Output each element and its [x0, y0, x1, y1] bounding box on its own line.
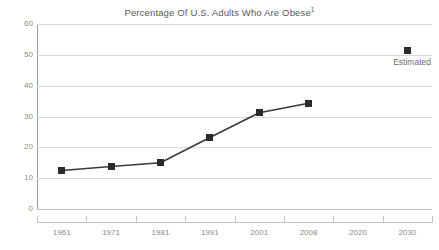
obesity-line-chart: Percentage Of U.S. Adults Who Are Obese1…	[0, 0, 439, 250]
x-tick-label-1991: 1991	[185, 228, 235, 237]
x-axis-tick	[432, 216, 433, 223]
x-tick-label-2008: 2008	[284, 228, 334, 237]
data-point-2030	[404, 47, 411, 54]
data-point-1981	[157, 159, 164, 166]
chart-title-footnote-marker: 1	[311, 6, 315, 13]
x-tick-label-1971: 1971	[86, 228, 136, 237]
gridline-0	[37, 209, 432, 210]
data-point-2008	[305, 100, 312, 107]
x-tick-label-1961: 1961	[37, 228, 87, 237]
y-tick-label-0: 0	[7, 205, 33, 213]
x-axis-tick	[37, 216, 38, 223]
x-axis-tick	[333, 216, 334, 223]
plot-area	[37, 24, 432, 209]
x-axis-tick	[136, 216, 137, 223]
y-tick-label-40: 40	[7, 82, 33, 90]
data-point-1961	[58, 167, 65, 174]
y-tick-label-60: 60	[7, 20, 33, 28]
chart-title-text: Percentage Of U.S. Adults Who Are Obese	[124, 7, 310, 18]
x-tick-label-2020: 2020	[333, 228, 383, 237]
data-point-1991	[206, 134, 213, 141]
estimated-annotation-label: Estimated	[0, 58, 431, 67]
y-tick-label-20: 20	[7, 143, 33, 151]
x-tick-label-2030: 2030	[382, 228, 432, 237]
series-line	[37, 24, 432, 209]
data-point-1971	[108, 163, 115, 170]
x-axis-tick	[383, 216, 384, 223]
y-tick-label-30: 30	[7, 113, 33, 121]
x-tick-label-2001: 2001	[234, 228, 284, 237]
data-point-2001	[256, 109, 263, 116]
x-tick-label-1981: 1981	[135, 228, 185, 237]
y-tick-label-10: 10	[7, 174, 33, 182]
chart-title: Percentage Of U.S. Adults Who Are Obese1	[0, 7, 439, 18]
x-axis-tick	[86, 216, 87, 223]
y-axis-tick-labels: 60 50 40 30 20 10 0	[0, 24, 33, 209]
x-axis-tick	[235, 216, 236, 223]
x-axis-tick	[284, 216, 285, 223]
x-axis-tick	[185, 216, 186, 223]
